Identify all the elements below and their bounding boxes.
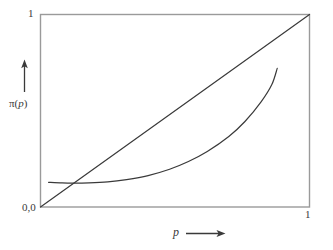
y-axis-label-paren: ) (24, 97, 28, 109)
probability-weighting-figure: 1 0,0 1 π(p) p (0, 0, 333, 250)
y-axis-label-pi: π( (9, 97, 18, 109)
x-axis-tick-right: 1 (305, 209, 311, 220)
up-arrow-icon (21, 60, 28, 93)
series-layer (41, 15, 310, 208)
plot-canvas (0, 0, 333, 250)
probability-weighting-function (49, 68, 278, 183)
y-axis-tick-top: 1 (28, 8, 34, 19)
y-axis-label: π(p) (9, 98, 27, 109)
x-axis-label: p (173, 226, 179, 238)
right-arrow-icon (186, 230, 226, 237)
origin-tick-label: 0,0 (22, 202, 36, 213)
identity-diagonal (41, 15, 310, 208)
